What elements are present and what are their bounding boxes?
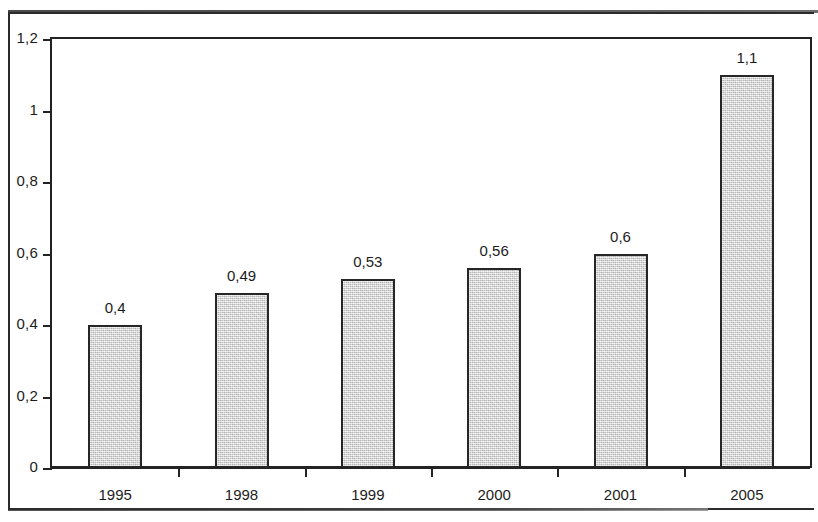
y-axis-tick-label: 0,4 bbox=[0, 315, 38, 332]
bar-value-label-1998: 0,49 bbox=[182, 267, 302, 284]
x-axis-tick bbox=[431, 468, 433, 477]
plot-area: 00,20,40,60,811,20,419950,4919980,531999… bbox=[52, 39, 810, 468]
y-axis-tick-label: 1,2 bbox=[0, 29, 38, 46]
bar-2005[interactable] bbox=[720, 75, 774, 468]
y-axis-tick-label: 0 bbox=[0, 458, 38, 475]
y-axis-tick-label: 0,8 bbox=[0, 172, 38, 189]
y-axis-tick bbox=[43, 325, 52, 327]
y-axis-tick bbox=[43, 397, 52, 399]
y-axis-tick-label: 0,2 bbox=[0, 387, 38, 404]
bar-1998[interactable] bbox=[215, 293, 269, 468]
x-axis-category-label-1999: 1999 bbox=[308, 486, 428, 503]
x-axis-tick bbox=[178, 468, 180, 477]
y-axis-tick bbox=[43, 111, 52, 113]
x-axis-tick bbox=[557, 468, 559, 477]
bar-value-label-2005: 1,1 bbox=[687, 49, 807, 66]
bar-2000[interactable] bbox=[467, 268, 521, 468]
y-axis-tick bbox=[43, 39, 52, 41]
y-axis-tick bbox=[43, 182, 52, 184]
bar-2001[interactable] bbox=[594, 254, 648, 469]
y-axis-tick-label: 1 bbox=[0, 101, 38, 118]
bar-value-label-1999: 0,53 bbox=[308, 253, 428, 270]
bar-value-label-2000: 0,56 bbox=[434, 242, 554, 259]
x-axis-category-label-2005: 2005 bbox=[687, 486, 807, 503]
x-axis-category-label-2001: 2001 bbox=[561, 486, 681, 503]
y-axis-tick bbox=[43, 468, 52, 470]
x-axis-category-label-1995: 1995 bbox=[55, 486, 175, 503]
x-axis-tick bbox=[305, 468, 307, 477]
chart-figure: 00,20,40,60,811,20,419950,4919980,531999… bbox=[0, 0, 818, 522]
document-frame-bottom-edge bbox=[8, 508, 708, 511]
bar-1999[interactable] bbox=[341, 279, 395, 468]
x-axis-category-label-1998: 1998 bbox=[182, 486, 302, 503]
bar-value-label-2001: 0,6 bbox=[561, 228, 681, 245]
x-axis-tick bbox=[684, 468, 686, 477]
y-axis-tick-label: 0,6 bbox=[0, 244, 38, 261]
y-axis-tick bbox=[43, 254, 52, 256]
bar-value-label-1995: 0,4 bbox=[55, 299, 175, 316]
x-axis-category-label-2000: 2000 bbox=[434, 486, 554, 503]
bar-1995[interactable] bbox=[88, 325, 142, 468]
